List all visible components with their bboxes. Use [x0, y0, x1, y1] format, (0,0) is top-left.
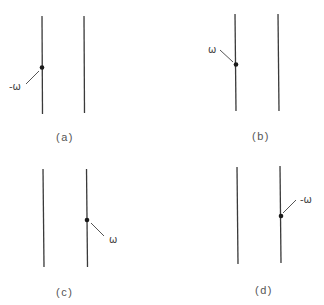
label-connector [91, 223, 104, 236]
point-label: -ω [9, 81, 21, 92]
panel-a: -ω (a) [9, 16, 85, 143]
point-marker [234, 62, 239, 67]
panel-b: ω (b) [208, 14, 279, 142]
panel-d: -ω (d) [237, 166, 312, 296]
right-line [278, 14, 279, 111]
left-line [237, 167, 238, 264]
left-line [43, 169, 44, 267]
panel-caption: (b) [252, 130, 270, 142]
label-connector [220, 50, 233, 62]
panel-c: ω (c) [43, 169, 117, 298]
panel-caption: (a) [56, 131, 74, 143]
right-line [84, 16, 85, 113]
point-marker [40, 65, 45, 70]
point-marker [85, 218, 90, 223]
panel-caption: (c) [56, 286, 73, 298]
panel-caption: (d) [255, 284, 273, 296]
point-label: -ω [300, 194, 312, 205]
label-connector [283, 200, 296, 213]
label-connector [26, 71, 39, 84]
left-line [42, 16, 43, 114]
point-label: ω [208, 44, 216, 55]
diagram: -ω (a) ω (b) ω (c) -ω (d) [0, 0, 324, 305]
point-label: ω [109, 234, 117, 245]
point-marker [279, 214, 284, 219]
